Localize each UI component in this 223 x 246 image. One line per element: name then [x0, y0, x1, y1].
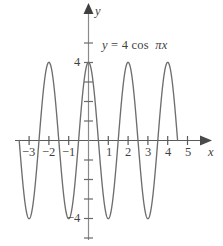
x-tick-label-5: 5: [185, 146, 191, 159]
y-axis-label: y: [95, 5, 101, 18]
x-axis-arrowhead: [200, 136, 212, 146]
y-axis-arrowhead: [84, 3, 94, 14]
x-tick-label--1: −1: [62, 146, 75, 159]
y-tick-label-4: 4: [74, 56, 80, 69]
x-axis-label: x: [208, 146, 214, 159]
x-tick-label--2: −2: [42, 146, 55, 159]
y-tick-label--4: −4: [67, 212, 80, 225]
equation-argument: πx: [155, 38, 167, 52]
graph-canvas: [0, 0, 223, 246]
x-tick-label-3: 3: [145, 146, 151, 159]
x-tick-label-4: 4: [165, 146, 171, 159]
x-tick-label-1: 1: [106, 146, 112, 159]
equation-label: y = 4 cos πx: [102, 39, 168, 52]
x-tick-label-2: 2: [125, 146, 131, 159]
x-tick-label--3: −3: [22, 146, 35, 159]
equation-function: cos: [131, 38, 148, 52]
graph-figure: −3 −2 −1 1 2 3 4 5 4 −4 y x y = 4 cos πx: [0, 0, 223, 246]
